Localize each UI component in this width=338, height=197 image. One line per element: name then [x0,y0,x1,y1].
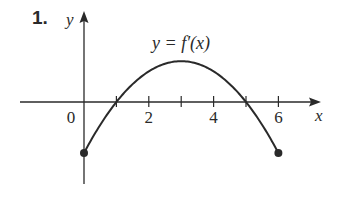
derivative-graph: 2460xyy = f′(x) [0,0,338,197]
origin-label: 0 [67,108,76,127]
x-tick-label: 6 [274,108,283,127]
y-axis-label: y [64,10,74,29]
derivative-curve [84,61,278,153]
x-tick-label: 2 [145,108,154,127]
x-tick-label: 4 [209,108,218,127]
x-axis-label: x [314,106,323,125]
closed-endpoint-dot [80,149,88,157]
curve-label: y = f′(x) [150,33,210,54]
closed-endpoint-dot [274,149,282,157]
